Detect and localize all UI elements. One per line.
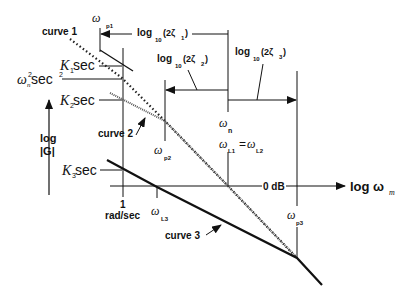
span2-log: log: [157, 53, 172, 64]
span1-log: log: [137, 27, 152, 38]
x-tick-1: 1: [120, 199, 126, 210]
curve1-short-solid: [100, 50, 133, 71]
x-tick-rad-sec: rad/sec: [105, 210, 140, 221]
curve3-label: curve 3: [165, 230, 200, 241]
span3-arg-close: ): [283, 47, 286, 57]
span1-arg-close: ): [185, 28, 188, 38]
curve3: [107, 160, 322, 285]
span3-sub: 10: [253, 56, 260, 62]
wn-label: ω: [219, 116, 227, 130]
k3-unit: sec: [75, 162, 97, 178]
span3-log: log: [235, 46, 250, 57]
wn2-unit-sup: 2: [59, 71, 63, 78]
wn2-label: ω: [17, 72, 27, 87]
bode-diagram: log |G| 0 dB log ω m 1 rad/sec ω L3 ω p1…: [0, 0, 406, 302]
k2-unit: sec: [73, 92, 95, 108]
curve3-arrow: [206, 225, 221, 235]
span1-arg: (2ζ: [163, 28, 175, 38]
curve1-label: curve 1: [42, 26, 77, 37]
wl2-label: ω: [247, 137, 255, 151]
curve2: [110, 93, 297, 258]
span3-arg: (2ζ: [261, 47, 273, 57]
curve2-arrow: [136, 118, 145, 135]
wl1-sub: L1: [228, 148, 236, 154]
wp3-sub: p3: [296, 220, 304, 226]
y-axis-label-log: log: [40, 132, 57, 144]
x-axis-label: log ω: [350, 179, 384, 194]
wp2-label: ω: [154, 143, 162, 157]
wl3-sub: L3: [161, 216, 169, 222]
wp2-sub: p2: [164, 155, 172, 161]
span2-leader: [188, 70, 197, 90]
zero-db-label: 0 dB: [263, 181, 285, 192]
wp1-label: ω: [92, 11, 100, 25]
wn-sub: n: [228, 127, 232, 134]
k3-label: K: [61, 163, 72, 178]
span1-sub: 10: [155, 37, 162, 43]
x-axis-label-sub: m: [389, 188, 395, 197]
y-axis-label-g: |G|: [40, 145, 55, 157]
wn2-unit: sec: [31, 71, 53, 87]
equals-sign: =: [239, 137, 246, 151]
span2-arg-close: ): [205, 54, 208, 64]
wl2-sub: L2: [256, 148, 264, 154]
wp1-sub: p1: [106, 23, 114, 29]
wp3-label: ω: [287, 208, 295, 222]
wl1-label: ω: [219, 137, 227, 151]
k1-unit: sec: [73, 57, 95, 73]
span3-leader: [257, 64, 263, 100]
k2-label: K: [59, 93, 70, 108]
span2-arg: (2ζ: [183, 54, 195, 64]
wl3-label: ω: [151, 204, 159, 218]
span2-sub: 10: [175, 63, 182, 69]
curve2-label: curve 2: [98, 128, 133, 139]
